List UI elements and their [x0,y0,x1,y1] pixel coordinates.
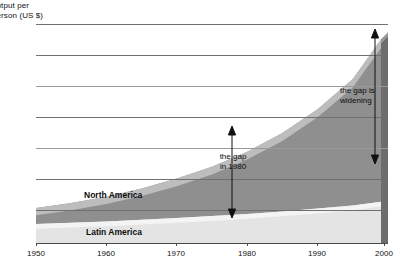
gridline-15000 [36,148,388,149]
series-label-north-america: North America [84,190,142,200]
x-axis-ticks: 1950 1960 1970 1980 1990 2000 [36,243,388,267]
annotation-gap-1980: the gap in 1980 [203,152,263,171]
y-axis-title-line1: output per [0,1,29,10]
gridline-5000 [36,210,388,211]
gridline-25000 [36,86,388,87]
gridline-30000 [36,55,388,56]
annotation-gap-widening: the gap is widening [340,86,400,105]
x-tick-mark-1950 [36,243,37,246]
y-axis-title-line2: person (US $) [0,11,43,20]
x-tick-mark-1960 [106,243,107,246]
gridline-35000 [36,24,388,25]
x-tick-mark-1980 [247,243,248,246]
series-label-latin-america: Latin America [86,227,142,237]
slab-right-face [381,33,388,244]
x-tick-1960: 1960 [97,249,115,258]
x-tick-1970: 1970 [167,249,185,258]
x-tick-1990: 1990 [308,249,326,258]
x-tick-mark-1990 [317,243,318,246]
plot-area [36,24,388,243]
gridline-10000 [36,179,388,180]
x-tick-mark-1970 [176,243,177,246]
x-tick-1950: 1950 [27,249,45,258]
x-tick-mark-2000 [384,243,385,246]
x-tick-2000: 2000 [375,249,393,258]
y-axis-title: output per person (US $) [0,1,43,21]
chart-canvas: output per person (US $) 35000 30000 250… [0,0,407,268]
x-tick-1980: 1980 [238,249,256,258]
gridline-20000 [36,117,388,118]
